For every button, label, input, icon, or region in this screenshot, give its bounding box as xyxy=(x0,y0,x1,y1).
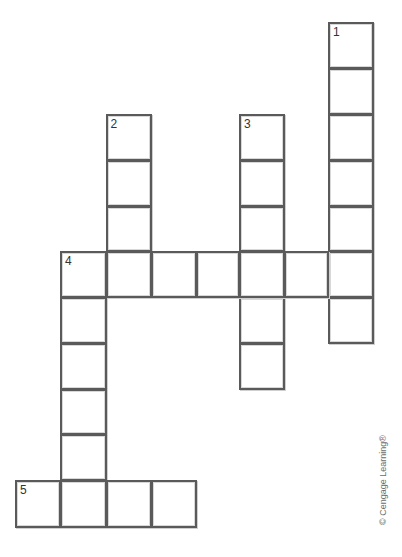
crossword-cell-3[interactable]: 3 xyxy=(239,114,285,161)
crossword-cell[interactable] xyxy=(106,206,153,252)
crossword-cell-4[interactable]: 4 xyxy=(60,251,107,298)
crossword-cell[interactable] xyxy=(328,206,374,252)
crossword-cell[interactable] xyxy=(284,251,329,298)
crossword-cell[interactable] xyxy=(60,480,107,528)
clue-number: 4 xyxy=(65,254,72,268)
crossword-cell[interactable] xyxy=(239,160,285,207)
crossword-cell[interactable] xyxy=(60,343,107,390)
crossword-cell[interactable] xyxy=(328,114,374,161)
crossword-cell[interactable] xyxy=(60,297,107,344)
crossword-cell[interactable] xyxy=(151,480,197,528)
crossword-cell[interactable] xyxy=(196,251,240,298)
crossword-cell[interactable] xyxy=(60,389,107,435)
crossword-cell[interactable] xyxy=(328,251,374,298)
crossword-cell[interactable] xyxy=(106,480,153,528)
crossword-cell[interactable] xyxy=(328,68,374,115)
crossword-cell[interactable] xyxy=(151,251,197,298)
crossword-cell[interactable] xyxy=(328,160,374,207)
crossword-grid: 12345 xyxy=(0,0,402,557)
clue-number: 3 xyxy=(244,117,251,131)
crossword-cell-1[interactable]: 1 xyxy=(328,22,374,69)
crossword-cell[interactable] xyxy=(239,297,285,344)
clue-number: 5 xyxy=(20,483,27,497)
crossword-cell[interactable] xyxy=(60,434,107,481)
crossword-cell-2[interactable]: 2 xyxy=(106,114,153,161)
clue-number: 1 xyxy=(333,25,340,39)
crossword-cell[interactable] xyxy=(239,251,285,298)
crossword-cell[interactable] xyxy=(239,206,285,252)
crossword-cell-5[interactable]: 5 xyxy=(15,480,61,528)
clue-number: 2 xyxy=(111,117,118,131)
crossword-cell[interactable] xyxy=(328,297,374,344)
copyright-credit: © Cengage Learning® xyxy=(378,435,388,525)
crossword-cell[interactable] xyxy=(106,251,153,298)
crossword-cell[interactable] xyxy=(106,160,153,207)
crossword-cell[interactable] xyxy=(239,343,285,390)
